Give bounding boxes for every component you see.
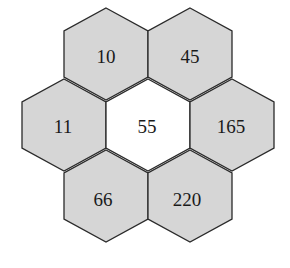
hex-label: 55 <box>138 116 157 137</box>
hex-label: 165 <box>217 116 246 137</box>
hex-label: 66 <box>94 189 113 210</box>
hex-label: 10 <box>97 46 116 67</box>
hex-label: 11 <box>54 116 72 137</box>
hexagon-diagram: 10 45 11 55 165 66 220 <box>0 0 290 268</box>
hex-label: 45 <box>181 46 200 67</box>
hex-label: 220 <box>173 189 202 210</box>
